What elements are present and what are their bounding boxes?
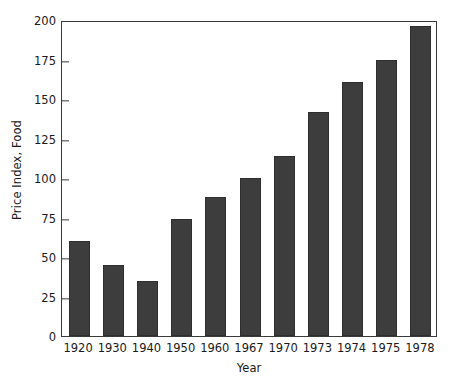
x-tick-label: 1967 <box>234 341 263 355</box>
x-tick-label: 1930 <box>98 341 127 355</box>
x-axis-title: Year <box>61 361 437 375</box>
y-tick-label: 200 <box>34 14 56 28</box>
bar <box>308 112 329 336</box>
bar <box>205 197 226 336</box>
x-tick-label: 1950 <box>166 341 195 355</box>
bars-group <box>62 22 436 336</box>
x-tick-label: 1940 <box>132 341 161 355</box>
bar <box>137 281 158 336</box>
y-tick-label: 0 <box>49 330 56 344</box>
bar-chart: Price Index, Food 0255075100125150175200… <box>0 0 460 391</box>
x-tick-label: 1978 <box>405 341 434 355</box>
y-axis-tick-labels: 0255075100125150175200 <box>22 21 56 337</box>
x-tick-label: 1975 <box>371 341 400 355</box>
x-tick-label: 1973 <box>303 341 332 355</box>
y-tick-label: 75 <box>41 212 56 226</box>
bar <box>103 265 124 336</box>
bar <box>410 26 431 336</box>
y-tick-label: 25 <box>41 291 56 305</box>
bar <box>274 156 295 336</box>
bar <box>376 60 397 337</box>
bar <box>69 241 90 336</box>
bar <box>240 178 261 336</box>
x-tick-label: 1960 <box>200 341 229 355</box>
x-tick-label: 1970 <box>269 341 298 355</box>
y-tick-label: 100 <box>34 172 56 186</box>
y-tick-label: 125 <box>34 133 56 147</box>
y-tick-label: 50 <box>41 251 56 265</box>
x-tick-label: 1974 <box>337 341 366 355</box>
x-axis-tick-labels: 1920193019401950196019671970197319741975… <box>61 341 437 359</box>
y-tick-label: 175 <box>34 54 56 68</box>
x-tick-label: 1920 <box>63 341 92 355</box>
y-tick-label: 150 <box>34 93 56 107</box>
bar <box>342 82 363 336</box>
plot-area <box>61 21 437 337</box>
bar <box>171 219 192 336</box>
